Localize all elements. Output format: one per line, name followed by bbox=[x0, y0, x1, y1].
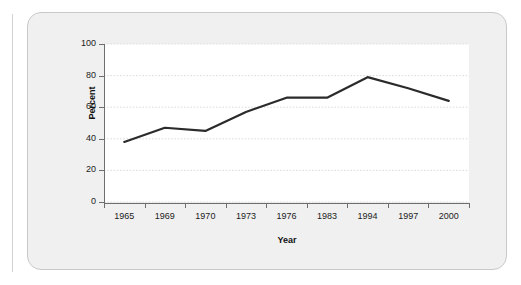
x-axis-tick-label: 1997 bbox=[388, 211, 429, 221]
y-axis-title: Percent bbox=[87, 86, 97, 119]
x-axis-tick-label: 2000 bbox=[428, 211, 469, 221]
x-axis-tick-label: 1970 bbox=[185, 211, 226, 221]
y-axis-tick-label: 20 bbox=[50, 165, 96, 174]
x-axis-tick bbox=[428, 203, 429, 208]
y-axis-tick bbox=[99, 107, 104, 108]
y-axis-tick-label: 0 bbox=[50, 197, 96, 206]
figure-card: 020406080100 196519691970197319761983199… bbox=[27, 12, 507, 270]
x-axis-title: Year bbox=[104, 235, 470, 245]
y-axis-tick-label: 80 bbox=[50, 71, 96, 80]
x-axis-tick bbox=[185, 203, 186, 208]
x-axis-tick-label: 1976 bbox=[266, 211, 307, 221]
x-axis-spine bbox=[104, 203, 470, 204]
y-axis-tick-label: 100 bbox=[50, 39, 96, 48]
x-axis-tick-label: 1969 bbox=[145, 211, 186, 221]
y-axis-spine bbox=[104, 44, 105, 203]
x-axis-tick bbox=[145, 203, 146, 208]
x-axis-tick-label: 1965 bbox=[104, 211, 145, 221]
x-axis-tick-label: 1973 bbox=[226, 211, 267, 221]
x-axis-tick bbox=[226, 203, 227, 208]
y-axis-tick bbox=[99, 170, 104, 171]
x-axis-tick bbox=[104, 203, 105, 208]
data-series-line bbox=[104, 44, 469, 202]
y-axis-tick bbox=[99, 139, 104, 140]
y-axis-tick bbox=[99, 76, 104, 77]
line-chart: 020406080100 196519691970197319761983199… bbox=[28, 13, 508, 271]
y-axis-tick-label: 40 bbox=[50, 134, 96, 143]
x-axis-tick bbox=[307, 203, 308, 208]
y-axis-tick bbox=[99, 44, 104, 45]
x-axis-tick bbox=[266, 203, 267, 208]
x-axis-tick bbox=[347, 203, 348, 208]
x-axis-tick-label: 1994 bbox=[347, 211, 388, 221]
x-axis-tick bbox=[469, 203, 470, 208]
x-axis-tick-label: 1983 bbox=[307, 211, 348, 221]
page-root: 020406080100 196519691970197319761983199… bbox=[0, 0, 521, 285]
page-left-rule bbox=[12, 14, 13, 272]
x-axis-tick bbox=[388, 203, 389, 208]
